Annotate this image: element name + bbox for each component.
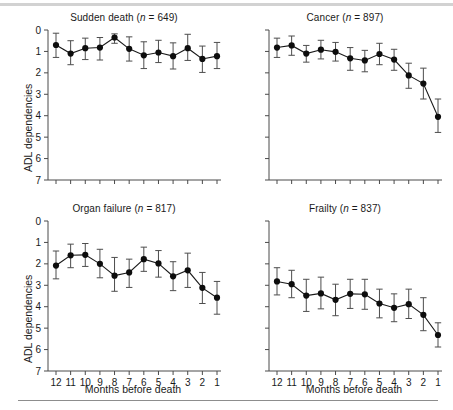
plot-organ-failure: 01234567121110987654321	[18, 203, 230, 403]
bottom-divider-rule	[18, 400, 438, 401]
top-divider-rule	[0, 3, 453, 6]
panel-organ-failure: Organ failure (n = 817) ADL dependencies…	[18, 203, 230, 403]
panel-title-text: Frailty	[309, 203, 337, 214]
panel-title-n: = 837)	[352, 203, 381, 214]
svg-text:3: 3	[35, 280, 41, 291]
svg-text:4: 4	[35, 301, 41, 312]
panel-title-n: = 649)	[149, 12, 178, 23]
x-axis-label-organ-failure: Months before death	[38, 383, 228, 395]
svg-text:0: 0	[35, 216, 41, 227]
panel-title-text: Cancer	[307, 12, 340, 23]
panel-title-cancer: Cancer (n = 897)	[239, 12, 451, 23]
panel-title-n: = 897)	[354, 12, 383, 23]
svg-text:6: 6	[35, 153, 41, 164]
svg-text:3: 3	[35, 89, 41, 100]
panel-title-text: Sudden death	[70, 12, 133, 23]
y-axis-label-organ-failure: ADL dependencies	[22, 275, 34, 363]
figure-container: Sudden death (n = 649) ADL dependencies …	[0, 0, 453, 410]
plot-cancer	[239, 12, 451, 202]
panel-title-n: = 817)	[146, 203, 175, 214]
panel-title-organ-failure: Organ failure (n = 817)	[18, 203, 230, 214]
svg-text:6: 6	[35, 344, 41, 355]
panel-sudden-death: Sudden death (n = 649) ADL dependencies …	[18, 12, 230, 202]
svg-text:5: 5	[35, 132, 41, 143]
svg-text:0: 0	[35, 25, 41, 36]
svg-text:7: 7	[35, 366, 41, 377]
plot-frailty: 121110987654321	[239, 203, 451, 403]
panel-title-frailty: Frailty (n = 837)	[239, 203, 451, 214]
panel-cancer: Cancer (n = 897)	[239, 12, 451, 202]
y-axis-label-sudden-death: ADL dependencies	[22, 84, 34, 172]
panel-title-text: Organ failure	[72, 203, 131, 214]
panel-title-sudden-death: Sudden death (n = 649)	[18, 12, 230, 23]
panel-frailty: Frailty (n = 837) 121110987654321 Months…	[239, 203, 451, 403]
svg-text:2: 2	[35, 258, 41, 269]
svg-text:1: 1	[35, 46, 41, 57]
svg-text:7: 7	[35, 175, 41, 186]
svg-text:1: 1	[35, 237, 41, 248]
plot-sudden-death: 01234567	[18, 12, 230, 202]
svg-text:5: 5	[35, 323, 41, 334]
x-axis-label-frailty: Months before death	[259, 383, 449, 395]
svg-text:2: 2	[35, 67, 41, 78]
svg-text:4: 4	[35, 110, 41, 121]
